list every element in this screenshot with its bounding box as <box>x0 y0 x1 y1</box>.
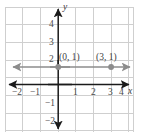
y-tick-label-4: 4 <box>49 20 54 30</box>
y-axis-label: y <box>63 3 67 13</box>
y-tick-label-3: 3 <box>49 38 54 48</box>
x-tick-label-3: 3 <box>108 88 113 98</box>
x-tick-label-minus-1: −1 <box>30 88 40 98</box>
coordinate-plane-figure: y x 4 3 2 −1 −2 −2 −1 1 2 3 4 (0, 1) (3,… <box>0 0 143 140</box>
x-tick-label-4: 4 <box>119 88 124 98</box>
x-tick-label-2: 2 <box>91 88 96 98</box>
x-tick-label-1: 1 <box>73 88 78 98</box>
y-tick-label-minus-2: −2 <box>45 117 55 127</box>
data-point-0-1 <box>55 64 61 70</box>
y-tick-label-2: 2 <box>49 55 54 65</box>
y-tick-label-minus-1: −1 <box>45 99 55 109</box>
x-tick-label-minus-2: −2 <box>12 88 22 98</box>
data-point-3-1 <box>108 64 114 70</box>
grid-lines <box>5 7 133 132</box>
graph-canvas <box>0 0 143 140</box>
point-annotation-0-1: (0, 1) <box>59 53 80 63</box>
point-annotation-3-1: (3, 1) <box>96 53 117 63</box>
x-axis-label: x <box>128 87 132 97</box>
